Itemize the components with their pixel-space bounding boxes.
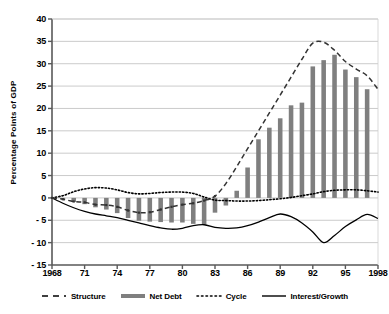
legend-item[interactable]: Interest/Growth	[261, 291, 349, 301]
bar-net-debt	[202, 198, 207, 225]
marker-structure	[138, 212, 140, 214]
marker-structure	[170, 206, 172, 208]
bar-net-debt	[332, 55, 337, 198]
marker-structure	[214, 195, 216, 197]
bar-net-debt	[267, 128, 272, 198]
marker-structure	[127, 209, 129, 211]
legend-item[interactable]: Cycle	[196, 291, 247, 301]
legend-label: Interest/Growth	[291, 292, 349, 301]
bar-net-debt	[354, 77, 359, 198]
bar-net-debt	[278, 118, 283, 198]
marker-structure	[105, 204, 107, 206]
chart-container: Percentage Points of GDP 403530252015105…	[0, 0, 389, 314]
legend-label: Structure	[71, 292, 106, 301]
thick-gray-bar-icon	[120, 291, 146, 301]
bar-net-debt	[137, 198, 142, 221]
bar-net-debt	[245, 167, 250, 197]
marker-structure	[94, 204, 96, 206]
marker-structure	[192, 202, 194, 204]
marker-structure	[84, 201, 86, 203]
bar-net-debt	[289, 105, 294, 198]
legend-item[interactable]: Net Debt	[120, 291, 182, 301]
plot-background	[52, 19, 378, 265]
marker-structure	[160, 208, 162, 210]
marker-structure	[62, 198, 64, 200]
bar-net-debt	[191, 198, 196, 224]
bar-net-debt	[224, 198, 229, 206]
marker-structure	[181, 204, 183, 206]
dotted-line-icon	[196, 291, 222, 301]
marker-structure	[203, 199, 205, 201]
bar-net-debt	[256, 139, 261, 198]
bar-net-debt	[321, 60, 326, 198]
bar-net-debt	[169, 198, 174, 223]
marker-structure	[149, 211, 151, 213]
marker-structure	[73, 200, 75, 202]
bar-net-debt	[311, 66, 316, 197]
chart-plot-area	[0, 0, 389, 314]
bar-net-debt	[234, 191, 239, 198]
bar-net-debt	[93, 198, 98, 207]
bar-net-debt	[148, 198, 153, 222]
legend-label: Cycle	[226, 292, 247, 301]
solid-line-icon	[261, 291, 287, 301]
legend-label: Net Debt	[150, 292, 182, 301]
marker-structure	[51, 197, 53, 199]
legend-item[interactable]: Structure	[41, 291, 106, 301]
bar-net-debt	[115, 198, 120, 213]
bar-net-debt	[104, 198, 109, 210]
bar-net-debt	[300, 103, 305, 198]
dashed-line-icon	[41, 291, 67, 301]
bar-net-debt	[365, 89, 370, 198]
bar-net-debt	[126, 198, 131, 218]
bar-net-debt	[343, 70, 348, 198]
chart-legend: StructureNet DebtCycleInterest/Growth	[0, 291, 389, 301]
bar-net-debt	[180, 198, 185, 223]
marker-structure	[116, 206, 118, 208]
